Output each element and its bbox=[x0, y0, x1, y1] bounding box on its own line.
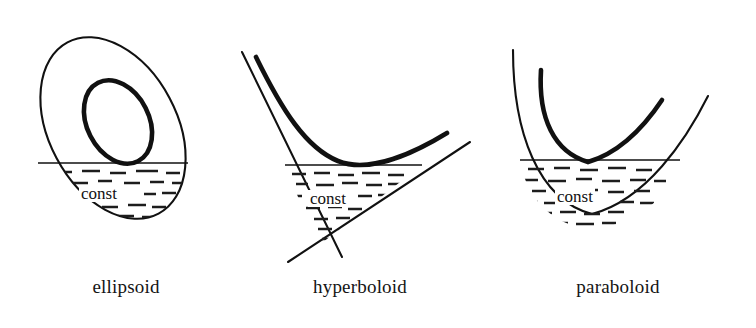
hyperbola-branch bbox=[256, 57, 447, 165]
hatching bbox=[524, 168, 666, 224]
const-label-ellipsoid: const bbox=[79, 185, 119, 202]
caption-ellipsoid: ellipsoid bbox=[0, 276, 252, 298]
outer-ellipse-curve bbox=[11, 12, 215, 243]
caption-hyperboloid: hyperboloid bbox=[230, 276, 490, 298]
inner-ellipse-curve bbox=[70, 69, 165, 176]
inner-parabola-curve bbox=[541, 70, 662, 162]
const-label-paraboloid: const bbox=[555, 188, 595, 205]
paraboloid-drawing bbox=[480, 0, 756, 270]
caption-paraboloid: paraboloid bbox=[480, 276, 756, 298]
ellipsoid-drawing bbox=[0, 0, 252, 270]
hyperboloid-drawing bbox=[230, 0, 490, 270]
panel-ellipsoid: const ellipsoid bbox=[0, 0, 252, 328]
const-label-hyperboloid: const bbox=[308, 190, 348, 207]
panel-paraboloid: const paraboloid bbox=[480, 0, 756, 328]
figure-root: const ellipsoid bbox=[0, 0, 756, 328]
panel-hyperboloid: const hyperboloid bbox=[230, 0, 490, 328]
